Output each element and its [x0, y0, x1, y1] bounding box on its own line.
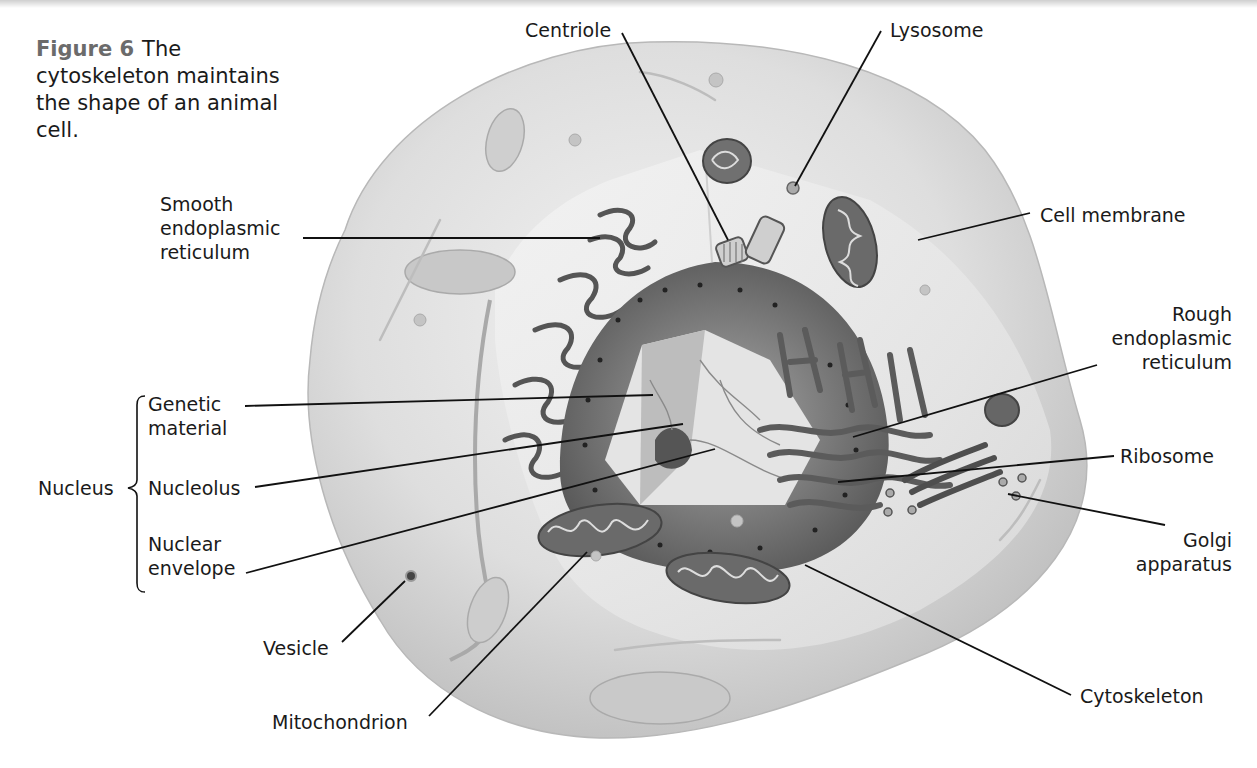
label-golgi: Golgi apparatus [1100, 528, 1232, 576]
label-smooth-er: Smooth endoplasmic reticulum [160, 192, 281, 264]
label-mitochondrion: Mitochondrion [272, 710, 408, 734]
label-nucleus: Nucleus [38, 476, 114, 500]
label-cell-membrane: Cell membrane [1040, 203, 1186, 227]
label-ribosome: Ribosome [1120, 444, 1214, 468]
label-nuclear-envelope: Nuclear envelope [148, 532, 235, 580]
vesicle-shape [406, 571, 416, 581]
label-rough-er: Rough endoplasmic reticulum [1100, 302, 1232, 374]
label-lysosome: Lysosome [890, 18, 983, 42]
label-centriole: Centriole [525, 18, 611, 42]
label-genetic-material: Genetic material [148, 392, 227, 440]
nucleus-brace [128, 396, 145, 592]
label-nucleolus: Nucleolus [148, 476, 241, 500]
label-vesicle: Vesicle [263, 636, 329, 660]
animal-cell-diagram [0, 0, 1257, 768]
label-cytoskeleton: Cytoskeleton [1080, 684, 1204, 708]
